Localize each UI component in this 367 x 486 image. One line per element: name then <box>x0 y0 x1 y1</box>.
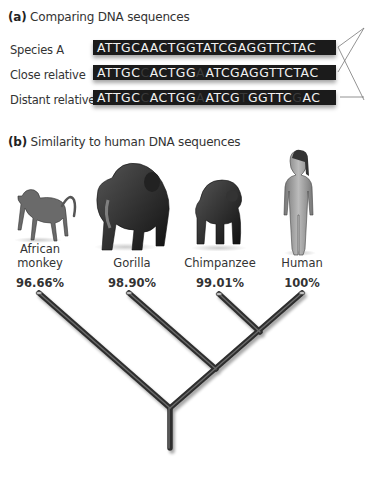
chimpanzee-icon <box>191 180 247 252</box>
matching-bases: ATCG <box>205 90 239 105</box>
species-name-chimpanzee: Chimpanzee <box>180 256 260 270</box>
tree-tip-chimpanzee <box>216 293 222 296</box>
part-b-title-text: Similarity to human DNA sequences <box>31 135 241 149</box>
row-label-distant-relative: Distant relative <box>10 93 95 107</box>
differing-base: C <box>140 90 149 105</box>
matching-bases: ATTGCAACTGGTATCGAGGTTCTAC <box>97 40 316 55</box>
row-label-close-relative: Close relative <box>10 68 86 82</box>
dna-sequence: ATTGCCACTGGAATCGTGGTTCGAC <box>97 90 320 105</box>
dna-sequence: ATTGCCACTGGAATCGAGGTTCTAC <box>97 65 319 80</box>
tree-tip-monkey <box>36 292 42 295</box>
similarity-chimpanzee: 99.01% <box>188 276 252 290</box>
similarity-human: 100% <box>270 276 334 290</box>
species-name-line2: monkey <box>8 256 72 270</box>
dna-bar-distant-relative: ATTGCCACTGGAATCGTGGTTCGAC <box>93 90 336 105</box>
species-name-human: Human <box>270 256 334 270</box>
part-b-title: (b) Similarity to human DNA sequences <box>8 135 240 149</box>
differing-base: T <box>240 90 248 105</box>
matching-bases: GGTTC <box>248 90 292 105</box>
part-a-title-text: Comparing DNA sequences <box>30 10 189 24</box>
dna-bar-species-a: ATTGCAACTGGTATCGAGGTTCTAC <box>93 40 336 55</box>
matching-bases: ACTGG <box>150 65 196 80</box>
differing-base: C <box>140 65 149 80</box>
similarity-gorilla: 98.90% <box>100 276 164 290</box>
tree-tip-human <box>299 292 305 295</box>
differing-base: G <box>292 90 302 105</box>
dna-bar-close-relative: ATTGCCACTGGAATCGAGGTTCTAC <box>93 65 336 80</box>
species-name-african-monkey: African monkey <box>8 242 72 270</box>
matching-bases: ACTGG <box>150 90 196 105</box>
matching-bases: ATTGC <box>97 90 140 105</box>
matching-bases: ATTGC <box>97 65 140 80</box>
species-name-line1: African <box>8 242 72 256</box>
tree-tip-gorilla <box>126 292 132 295</box>
part-a-label: (a) <box>8 10 26 24</box>
monkey-icon <box>14 190 75 243</box>
part-b-label: (b) <box>8 135 27 149</box>
gorilla-icon <box>94 163 169 251</box>
row-label-species-a: Species A <box>10 43 64 57</box>
matching-bases: AC <box>302 90 320 105</box>
human-icon <box>284 150 316 256</box>
part-a-title: (a) Comparing DNA sequences <box>8 10 190 24</box>
dna-sequence: ATTGCAACTGGTATCGAGGTTCTAC <box>97 40 316 55</box>
matching-bases: ATCGAGGTTCTAC <box>205 65 318 80</box>
similarity-african-monkey: 96.66% <box>8 276 72 290</box>
species-name-gorilla: Gorilla <box>100 256 164 270</box>
